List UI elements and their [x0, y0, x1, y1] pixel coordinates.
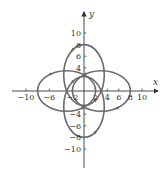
parametric-plot: −10−6−224681010864−4−6−8−10xy — [0, 0, 164, 175]
x-tick-label: 8 — [128, 93, 133, 102]
x-axis-label: x — [153, 77, 158, 87]
x-tick-label: −10 — [18, 93, 35, 102]
x-tick-label: −2 — [67, 93, 79, 102]
x-tick-label: −6 — [43, 93, 55, 102]
x-tick-label: 2 — [93, 93, 98, 102]
y-tick-label: −10 — [64, 145, 81, 154]
y-tick-label: −4 — [69, 110, 81, 119]
y-tick-label: 4 — [76, 64, 81, 73]
x-tick-label: 10 — [137, 93, 147, 102]
y-tick-label: 8 — [76, 41, 81, 50]
y-tick-label: 6 — [76, 52, 81, 61]
y-tick-label: −8 — [69, 133, 81, 142]
y-axis-label: y — [88, 9, 95, 19]
x-tick-label: 4 — [105, 93, 110, 102]
tick-labels: −10−6−224681010864−4−6−8−10xy — [18, 9, 159, 154]
axes — [12, 12, 158, 168]
y-tick-label: 10 — [71, 29, 81, 38]
y-tick-label: −6 — [69, 122, 81, 131]
x-tick-label: 6 — [116, 93, 121, 102]
